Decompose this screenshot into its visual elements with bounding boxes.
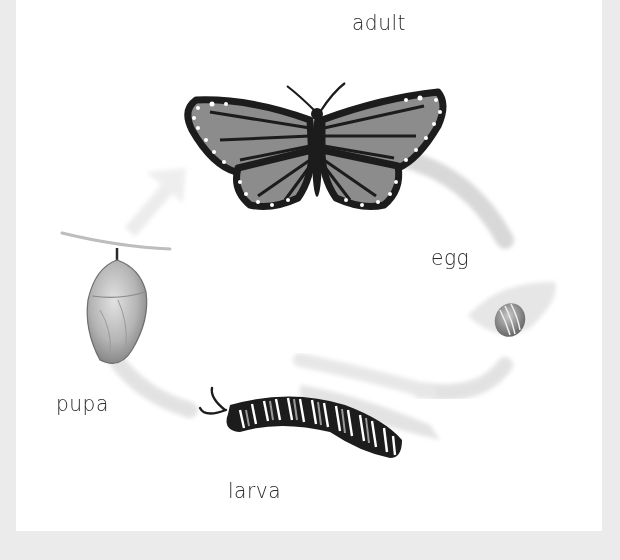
stage-label-adult: adult: [352, 10, 406, 35]
cycle-arrow-larva-to-pupa: [115, 358, 190, 410]
egg-icon: [468, 282, 556, 341]
twig: [62, 233, 170, 249]
adult-butterfly-icon: [188, 83, 443, 207]
cycle-arrow-egg-to-larva: [300, 360, 505, 392]
larva-icon: [200, 385, 440, 458]
cycle-arrow-adult-to-egg: [402, 158, 505, 240]
life-cycle-illustration: [0, 0, 620, 560]
stage-label-larva: larva: [228, 478, 281, 503]
stage-label-pupa: pupa: [56, 391, 109, 416]
pupa-icon: [87, 248, 147, 363]
cycle-arrow-pupa-to-adult: [130, 168, 186, 232]
stage-label-egg: egg: [431, 245, 469, 270]
